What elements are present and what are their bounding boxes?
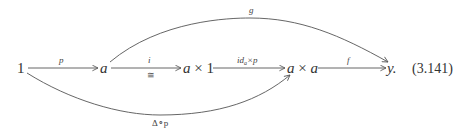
label-p: p [58, 55, 64, 65]
object-one: 1 [17, 60, 25, 76]
equation-number: (3.141) [412, 61, 453, 77]
arrow-delta-p [27, 73, 290, 115]
label-id-times-p: ida×p [237, 55, 258, 66]
label-iso: ≅ [147, 70, 155, 80]
commutative-diagram: 1 a a × 1 a × a y. (3.141) p i ≅ ida×p f… [0, 0, 464, 133]
label-g: g [249, 5, 254, 15]
object-y: y. [385, 60, 397, 76]
object-a: a [100, 60, 108, 76]
label-f: f [347, 55, 351, 65]
label-i: i [148, 55, 151, 65]
object-a-times-a: a × a [287, 60, 318, 76]
object-a-times-1: a × 1 [183, 60, 214, 76]
label-delta-p: Δ∘p [152, 118, 169, 128]
